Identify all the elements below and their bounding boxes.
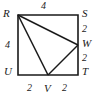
vertex-label-r: R <box>3 8 10 19</box>
triangle-rvw-group <box>18 15 78 75</box>
length-label-left-ru: 4 <box>5 40 10 50</box>
length-label-bottom-uv: 2 <box>27 83 32 93</box>
length-label-bottom-vt: 2 <box>62 83 67 93</box>
geometry-figure: R S T U W V 4 4 2 2 2 2 <box>0 0 100 98</box>
length-label-right-wt: 2 <box>82 53 87 63</box>
segment-r-to-w <box>18 15 78 45</box>
segment-v-to-r <box>18 15 48 75</box>
length-label-right-sw: 2 <box>82 24 87 34</box>
vertex-label-w: W <box>82 38 91 49</box>
vertex-label-v: V <box>44 83 51 94</box>
length-label-top-rs: 4 <box>41 1 46 11</box>
vertex-label-t: T <box>82 66 88 77</box>
square-rstu <box>18 15 78 75</box>
vertex-label-s: S <box>82 8 88 19</box>
square-outline-group <box>18 15 78 75</box>
segment-w-to-v <box>48 45 78 75</box>
vertex-label-u: U <box>4 66 12 77</box>
